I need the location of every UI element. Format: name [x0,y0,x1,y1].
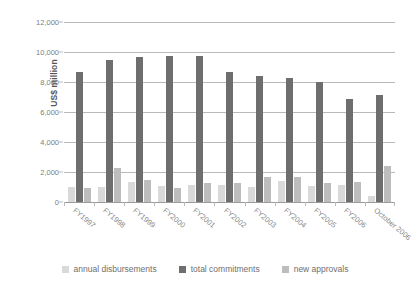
x-axis-labels: FY1997FY1998FY1999FY2000FY2001FY2002FY20… [64,204,395,250]
legend-item: new approvals [282,264,349,274]
gridline [64,202,395,203]
bar [226,72,233,203]
legend-label: new approvals [294,264,349,274]
bar [278,181,285,202]
bar [68,187,75,202]
x-label-cell: FY1999 [124,204,154,250]
bar [84,188,91,202]
x-label-cell: FY2005 [305,204,335,250]
bar-group [335,22,365,202]
bar [188,185,195,202]
bar [166,56,173,202]
bar-group [365,22,395,202]
legend-item: total commitments [179,264,260,274]
bar-group [245,22,275,202]
bar-group [184,22,214,202]
bar [248,187,255,202]
bar [368,196,375,202]
bar [204,183,211,202]
x-label-cell: FY2004 [275,204,305,250]
y-tick-label: 6,000 [40,108,59,117]
bar [106,60,113,203]
y-tick-mark [59,112,63,113]
x-label-cell: FY2002 [214,204,244,250]
bar [234,183,241,202]
legend-label: annual disbursements [74,264,157,274]
y-tick-label: 0 [55,198,59,207]
bar [338,185,345,202]
bar-group [154,22,184,202]
bar [114,168,121,202]
x-tick-label: October 2006 [372,206,413,242]
x-label-cell: FY1998 [94,204,124,250]
legend-item: annual disbursements [62,264,157,274]
bar [308,186,315,202]
bar [294,177,301,203]
x-label-cell: FY1997 [64,204,94,250]
y-tick-label: 2,000 [40,168,59,177]
bar-group [64,22,94,202]
bar [324,183,331,203]
plot-area: 02,0004,0006,0008,00010,00012,000 [64,22,395,202]
x-label-cell: FY2000 [154,204,184,250]
y-tick-mark [59,52,63,53]
bar [316,82,323,202]
bar [76,72,83,203]
y-tick-label: 8,000 [40,78,59,87]
y-tick-label: 4,000 [40,138,59,147]
y-tick-label: 10,000 [36,48,59,57]
bar-group [275,22,305,202]
legend-label: total commitments [191,264,260,274]
bar [174,188,181,202]
chart-legend: annual disbursementstotal commitmentsnew… [0,264,410,274]
y-tick-mark [59,142,63,143]
bar [128,182,135,202]
bar-groups [64,22,395,202]
y-tick-mark [59,22,63,23]
x-label-cell: FY2006 [335,204,365,250]
bar [144,180,151,202]
legend-swatch-icon [282,266,289,273]
x-label-cell: FY2001 [184,204,214,250]
bar [376,95,383,202]
bar-group [214,22,244,202]
x-label-cell: October 2006 [365,204,395,250]
bar-group [305,22,335,202]
bar-group [94,22,124,202]
bar [384,166,391,202]
bar [286,78,293,203]
x-label-cell: FY2003 [245,204,275,250]
bar [196,56,203,202]
bar-group [124,22,154,202]
y-tick-mark [59,82,63,83]
bar [136,57,143,202]
y-tick-mark [59,172,63,173]
legend-swatch-icon [62,266,69,273]
legend-swatch-icon [179,266,186,273]
bar [354,182,361,202]
y-tick-label: 12,000 [36,18,59,27]
bar [98,187,105,202]
bar [346,99,353,203]
bar [264,177,271,203]
bar [218,185,225,202]
bar [158,186,165,202]
bar [256,76,263,202]
y-tick-mark [59,202,63,203]
